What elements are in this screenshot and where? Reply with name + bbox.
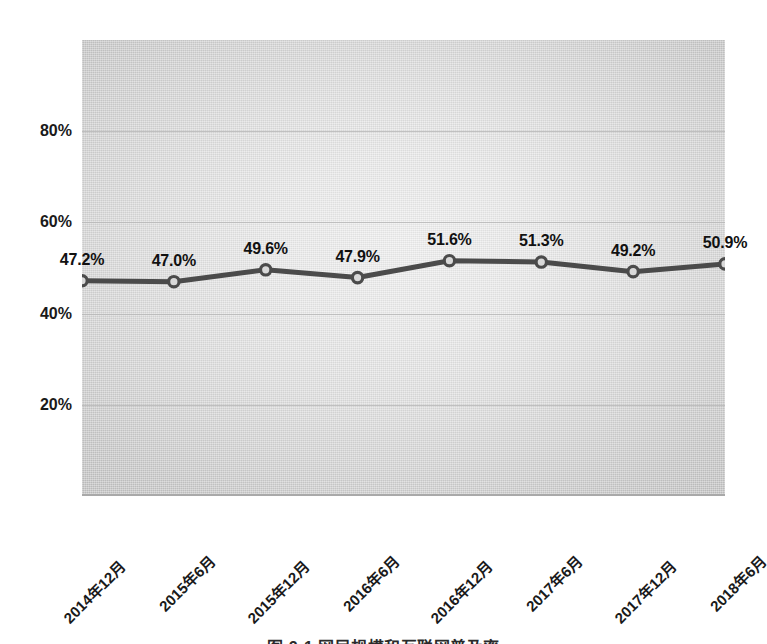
y-axis-tick-label: 80% — [8, 122, 72, 140]
data-point-label: 47.9% — [335, 248, 379, 266]
figure-caption-text: 图 2-1 网民规模和互联网普及率 — [267, 634, 500, 644]
y-axis-tick-label: 60% — [8, 213, 72, 231]
y-axis-tick-label: 20% — [8, 396, 72, 414]
data-point-label: 47.0% — [152, 252, 196, 270]
y-axis-tick-label: 40% — [8, 305, 72, 323]
data-point-label: 49.6% — [244, 240, 288, 258]
data-point-label: 51.6% — [427, 231, 471, 249]
y-axis-labels: 20%40%60%80% — [0, 0, 767, 644]
data-point-label: 47.2% — [60, 251, 104, 269]
chart-figure: 20%40%60%80% 2014年12月2015年6月2015年12月2016… — [0, 0, 767, 644]
data-point-label: 49.2% — [611, 242, 655, 260]
data-point-label: 51.3% — [519, 232, 563, 250]
data-point-label: 50.9% — [703, 234, 747, 252]
figure-caption: 图 2-1 网民规模和互联网普及率 — [0, 634, 767, 644]
